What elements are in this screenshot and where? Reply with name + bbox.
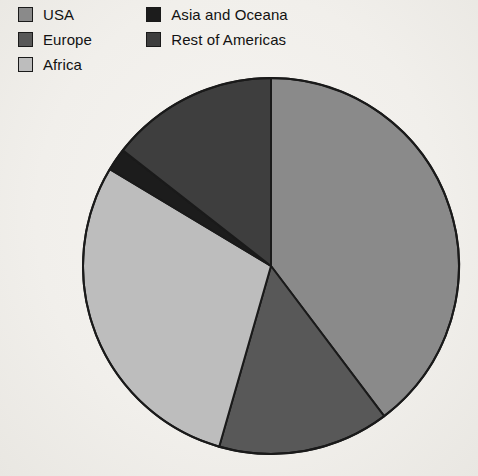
chart-legend: USA Europe Africa Asia and Oceana Rest o… bbox=[18, 2, 318, 77]
legend-column-left: USA Europe Africa bbox=[18, 2, 122, 77]
legend-swatch-asia-and-oceana bbox=[146, 7, 161, 22]
legend-label-rest-of-americas: Rest of Americas bbox=[171, 32, 286, 47]
legend-item-usa[interactable]: USA bbox=[18, 2, 122, 27]
legend-swatch-usa bbox=[18, 7, 33, 22]
legend-column-right: Asia and Oceana Rest of Americas bbox=[146, 2, 318, 77]
legend-label-asia-and-oceana: Asia and Oceana bbox=[171, 7, 288, 22]
legend-swatch-europe bbox=[18, 32, 33, 47]
pie-slice-group bbox=[83, 78, 459, 454]
legend-label-usa: USA bbox=[43, 7, 74, 22]
legend-label-africa: Africa bbox=[43, 57, 82, 72]
legend-item-rest-of-americas[interactable]: Rest of Americas bbox=[146, 27, 318, 52]
legend-swatch-rest-of-americas bbox=[146, 32, 161, 47]
legend-label-europe: Europe bbox=[43, 32, 92, 47]
legend-item-asia-and-oceana[interactable]: Asia and Oceana bbox=[146, 2, 318, 27]
legend-item-africa[interactable]: Africa bbox=[18, 52, 122, 77]
legend-swatch-africa bbox=[18, 57, 33, 72]
legend-item-europe[interactable]: Europe bbox=[18, 27, 122, 52]
